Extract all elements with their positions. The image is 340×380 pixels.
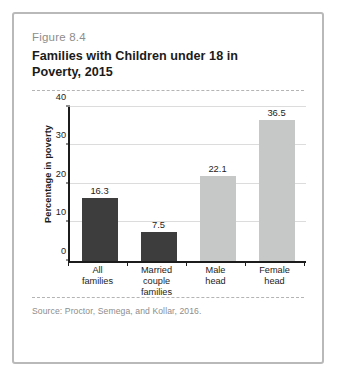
y-axis-tick-label: 10 [56, 207, 66, 217]
bar-cell: 7.5 [129, 107, 188, 261]
bar-value-label: 16.3 [70, 185, 129, 196]
x-axis-category-line: All [69, 265, 126, 276]
y-axis-tick-label: 30 [56, 130, 66, 140]
x-axis-category-line: couple [128, 276, 185, 287]
x-axis-category-line: head [187, 276, 244, 287]
bar-value-label: 22.1 [188, 163, 247, 174]
x-axis-category-line: families [69, 276, 126, 287]
bar [82, 198, 118, 261]
x-axis-category-label: Malehead [186, 265, 245, 298]
x-axis-labels: AllfamiliesMarriedcouplefamiliesMalehead… [68, 265, 304, 298]
plot-area: 010203040 16.37.522.136.5 [68, 107, 306, 263]
x-axis-category-line: families [128, 287, 185, 298]
bar [141, 232, 177, 261]
figure-number: Figure 8.4 [32, 30, 304, 46]
y-axis-tick-label: 40 [56, 92, 66, 102]
bar-cell: 16.3 [70, 107, 129, 261]
figure-title: Families with Children under 18 in Pover… [32, 48, 282, 81]
bar-value-label: 36.5 [247, 107, 306, 118]
bar-cell: 36.5 [247, 107, 306, 261]
bar [200, 176, 236, 261]
x-axis-category-label: Marriedcouplefamilies [127, 265, 186, 298]
y-axis-tick-label: 0 [61, 246, 66, 256]
x-axis-category-line: Married [128, 265, 185, 276]
bar-cell: 22.1 [188, 107, 247, 261]
figure-card-inner: Figure 8.4 Families with Children under … [14, 14, 322, 362]
bar [259, 120, 295, 261]
x-axis-category-label: Allfamilies [68, 265, 127, 298]
x-axis-category-label: Femalehead [245, 265, 304, 298]
figure-source: Source: Proctor, Semega, and Kollar, 201… [32, 306, 304, 316]
y-axis-tick-label: 20 [56, 169, 66, 179]
bar-value-label: 7.5 [129, 219, 188, 230]
bar-series: 16.37.522.136.5 [70, 107, 306, 261]
figure-card: Figure 8.4 Families with Children under … [12, 12, 324, 364]
x-axis-category-line: Female [246, 265, 303, 276]
x-axis-category-line: head [246, 276, 303, 287]
y-axis-title: Percentage in poverty [43, 114, 53, 234]
x-axis-category-line: Male [187, 265, 244, 276]
x-axis-tick-mark [304, 261, 305, 266]
bar-chart: Percentage in poverty 010203040 16.37.52… [32, 97, 308, 297]
divider-top [32, 90, 304, 91]
